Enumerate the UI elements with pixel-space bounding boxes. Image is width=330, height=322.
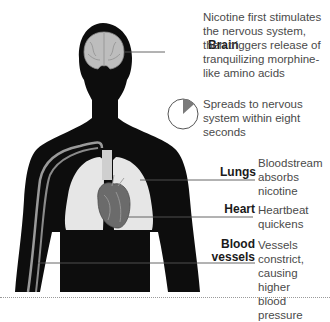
blood-vessels-description: Vessels constrict, causing higher blood …: [258, 238, 330, 322]
pie-8-seconds-icon: [166, 97, 200, 131]
lungs-description: Bloodstream absorbs nicotine: [258, 156, 330, 198]
heart-description: Heartbeat quickens: [258, 203, 330, 231]
blood-vessels-label: Blood vessels: [200, 238, 255, 264]
lungs-label: Lungs: [208, 166, 256, 179]
dotted-divider: [0, 297, 330, 298]
spread-description: Spreads to nervous system within eight s…: [203, 97, 330, 139]
brain-description: Nicotine first stimulates the nervous sy…: [203, 10, 330, 80]
heart-label: Heart: [208, 203, 255, 216]
